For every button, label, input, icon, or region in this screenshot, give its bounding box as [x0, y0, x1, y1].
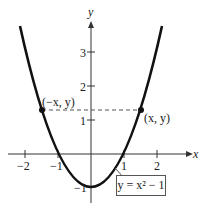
x-tick-label-2: 2: [154, 160, 160, 172]
y-tick-label-2: 2: [80, 81, 86, 93]
x-tick-label-1: 1: [121, 160, 127, 172]
y-tick-label-3: 3: [80, 47, 86, 59]
parabola-graph: [0, 0, 206, 208]
x-axis-arrow-icon: [186, 151, 193, 157]
x-axis-label: x: [193, 148, 198, 160]
x-tick-label-neg1: −1: [50, 160, 63, 172]
y-tick-label-neg1: −1: [74, 182, 87, 194]
point-left-label: (−x, y): [42, 96, 75, 108]
y-axis-arrow-icon: [88, 21, 94, 28]
x-tick-label-neg2: −2: [17, 160, 30, 172]
y-tick-label-1: 1: [80, 115, 86, 127]
equation-label: y = x² − 1: [117, 178, 164, 193]
equation-box: y = x² − 1: [116, 175, 166, 196]
y-axis-label: y: [88, 6, 93, 18]
point-right-label: (x, y): [144, 112, 170, 124]
